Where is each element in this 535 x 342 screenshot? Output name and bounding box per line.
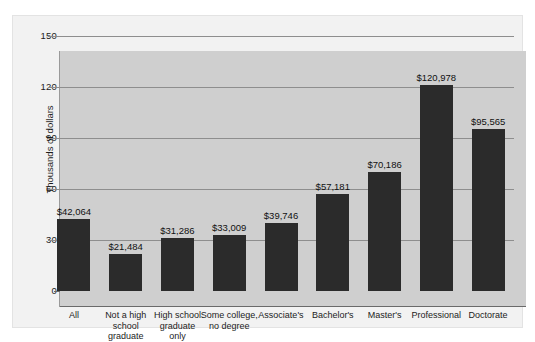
bar-value-label: $21,484	[86, 241, 166, 252]
chart-figure: Thousands of dollars 0306090120150 $42,0…	[0, 0, 535, 342]
bar-value-label: $39,746	[241, 210, 321, 221]
bar-value-label: $120,978	[396, 72, 476, 83]
x-tick-label: Master's	[356, 310, 414, 321]
x-tick-label-line: school	[97, 321, 155, 332]
chart-frame: Thousands of dollars 0306090120150 $42,0…	[12, 15, 523, 328]
x-tick-label: Some college,no degree	[200, 310, 258, 331]
x-tick-label-line: Professional	[407, 310, 465, 321]
bar	[213, 235, 246, 291]
bar	[472, 129, 505, 291]
x-tick-label-line: graduate	[97, 331, 155, 342]
y-axis-title: Thousands of dollars	[44, 75, 55, 225]
x-tick-label: Doctorate	[459, 310, 517, 321]
x-tick-label-line: no degree	[200, 321, 258, 332]
gridline	[48, 36, 514, 37]
bar-value-label: $42,064	[34, 206, 114, 217]
x-tick-label-line: Associate's	[252, 310, 310, 321]
x-tick-label-line: Bachelor's	[304, 310, 362, 321]
bar-value-label: $70,186	[345, 159, 425, 170]
x-tick-label: High schoolgraduateonly	[149, 310, 207, 342]
x-tick-label-line: Doctorate	[459, 310, 517, 321]
bar-value-label: $57,181	[293, 181, 373, 192]
x-tick-label-line: Master's	[356, 310, 414, 321]
bar-value-label: $33,009	[189, 222, 269, 233]
x-tick-label: Bachelor's	[304, 310, 362, 321]
x-tick-label-line: Not a high	[97, 310, 155, 321]
x-tick-label: Professional	[407, 310, 465, 321]
bar	[57, 219, 90, 291]
y-tick-label: 0	[13, 285, 57, 296]
x-axis-line	[60, 306, 526, 307]
x-tick-label-line: only	[149, 331, 207, 342]
bar	[368, 172, 401, 291]
x-tick-label-line: Some college,	[200, 310, 258, 321]
x-tick-label: Not a highschoolgraduate	[97, 310, 155, 342]
bar	[109, 254, 142, 291]
bar	[265, 223, 298, 291]
x-tick-label-line: graduate	[149, 321, 207, 332]
x-tick-label-line: All	[45, 310, 103, 321]
bar	[316, 194, 349, 291]
x-tick-label: All	[45, 310, 103, 321]
x-tick-label: Associate's	[252, 310, 310, 321]
y-tick-mark	[54, 291, 60, 292]
x-tick-label-line: High school	[149, 310, 207, 321]
bar-value-label: $95,565	[448, 116, 528, 127]
bar	[161, 238, 194, 291]
